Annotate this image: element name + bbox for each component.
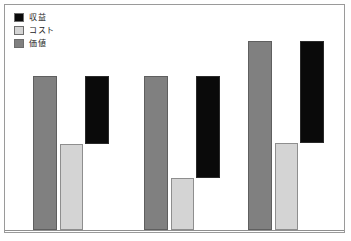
legend-swatch-cost bbox=[14, 26, 24, 35]
legend-label-revenue: 収益 bbox=[29, 13, 46, 22]
x-axis-baseline bbox=[5, 230, 344, 231]
bar-revenue-group-1 bbox=[85, 76, 109, 144]
legend-swatch-value bbox=[14, 39, 24, 48]
chart-legend: 収益 コスト 価値 bbox=[14, 12, 55, 49]
legend-label-cost: コスト bbox=[29, 26, 55, 35]
legend-swatch-revenue bbox=[14, 13, 24, 22]
legend-label-value: 価値 bbox=[29, 39, 46, 48]
bar-value-group-3 bbox=[248, 41, 272, 230]
legend-item-revenue: 収益 bbox=[14, 12, 55, 23]
bar-value-group-2 bbox=[144, 76, 168, 230]
bar-value-group-1 bbox=[33, 76, 57, 230]
bar-revenue-group-2 bbox=[196, 76, 220, 178]
bar-revenue-group-3 bbox=[300, 41, 324, 143]
bar-cost-group-1 bbox=[60, 144, 83, 230]
bar-cost-group-3 bbox=[275, 143, 298, 230]
chart-frame: 収益 コスト 価値 bbox=[4, 4, 345, 233]
plot-area bbox=[5, 5, 344, 232]
bar-cost-group-2 bbox=[171, 178, 194, 230]
legend-item-cost: コスト bbox=[14, 25, 55, 36]
legend-item-value: 価値 bbox=[14, 38, 55, 49]
